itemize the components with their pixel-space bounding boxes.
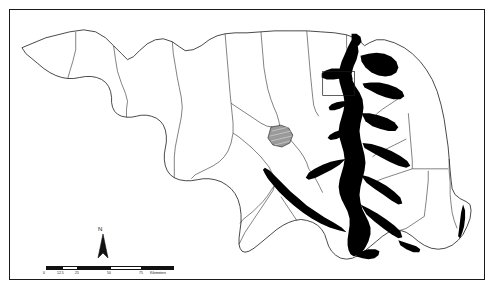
bay-pocomoke-sound (398, 240, 420, 252)
north-arrow-label: N (98, 226, 102, 232)
scale-unit-label: Kilometers (150, 272, 166, 275)
scale-bar: 0 12.5 25 50 75 Kilometers (46, 266, 176, 280)
map-canvas (10, 10, 484, 279)
scale-segment-4 (110, 266, 142, 270)
north-arrow (92, 232, 114, 262)
maryland-state-outline (22, 30, 471, 259)
scale-tick-3: 50 (107, 272, 111, 275)
highlight-feature-layer (268, 125, 293, 147)
scale-segment-5 (142, 266, 174, 270)
scale-tick-0: 0 (43, 272, 45, 275)
north-arrow-icon (98, 234, 108, 258)
scale-tick-4: 75 (139, 272, 143, 275)
scale-segment-1 (46, 266, 62, 270)
scale-segment-3 (78, 266, 110, 270)
map-figure: N 0 12.5 25 50 75 Kilometers (0, 0, 496, 291)
scale-tick-1: 12.5 (57, 272, 64, 275)
scale-segment-2 (62, 266, 78, 270)
state-outline-layer (22, 30, 471, 259)
scale-tick-2: 25 (75, 272, 79, 275)
map-frame: N 0 12.5 25 50 75 Kilometers (9, 9, 485, 280)
